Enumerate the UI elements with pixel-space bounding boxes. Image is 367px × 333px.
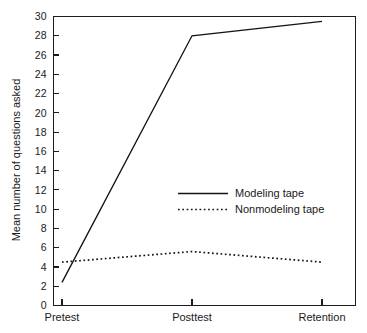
y-axis-tick-label: 0	[41, 299, 47, 311]
line-chart: 024681012141618202224262830 PretestPostt…	[0, 0, 367, 333]
series-line-nonmodeling-tape	[62, 252, 322, 263]
y-axis-tick-label: 10	[35, 203, 47, 215]
x-axis-tick-label: Pretest	[45, 311, 80, 323]
y-axis-tick-label: 24	[35, 68, 47, 80]
x-axis-tick-labels: PretestPosttestRetention	[45, 311, 346, 323]
y-axis-tick-label: 8	[41, 222, 47, 234]
x-axis-ticks	[62, 299, 322, 306]
y-axis-tick-label: 30	[35, 10, 47, 22]
chart-legend: Modeling tape Nonmodeling tape	[178, 187, 324, 215]
axis-frame	[54, 17, 356, 306]
legend-entry-modeling-tape: Modeling tape	[178, 187, 304, 199]
legend-entry-nonmodeling-tape: Nonmodeling tape	[178, 203, 324, 215]
x-axis-tick-label: Posttest	[172, 311, 212, 323]
chart-canvas: 024681012141618202224262830 PretestPostt…	[0, 0, 367, 333]
y-axis-tick-label: 14	[35, 164, 47, 176]
series-group	[62, 21, 322, 282]
y-axis-tick-labels: 024681012141618202224262830	[35, 10, 47, 311]
y-axis-ticks	[54, 36, 59, 286]
y-axis-tick-label: 18	[35, 126, 47, 138]
x-axis-tick-label: Retention	[298, 311, 345, 323]
legend-label-modeling-tape: Modeling tape	[235, 187, 304, 199]
y-axis-tick-label: 28	[35, 29, 47, 41]
y-axis-tick-label: 22	[35, 87, 47, 99]
y-axis-tick-label: 16	[35, 145, 47, 157]
y-axis-tick-label: 6	[41, 241, 47, 253]
y-axis-tick-label: 26	[35, 49, 47, 61]
y-axis-tick-label: 12	[35, 184, 47, 196]
y-axis-tick-label: 20	[35, 107, 47, 119]
series-line-modeling-tape	[62, 21, 322, 282]
plot-frame	[54, 17, 356, 306]
y-axis-tick-label: 4	[41, 261, 47, 273]
y-axis-title: Mean number of questions asked	[10, 79, 22, 242]
y-axis-tick-label: 2	[41, 280, 47, 292]
legend-label-nonmodeling-tape: Nonmodeling tape	[235, 203, 324, 215]
